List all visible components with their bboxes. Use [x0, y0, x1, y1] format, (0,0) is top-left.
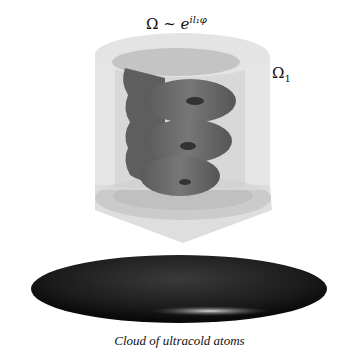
diagram-canvas [0, 0, 359, 358]
phase-equation-label: Ω ~ eil₁φ [146, 14, 207, 33]
atom-cloud [31, 255, 327, 323]
exponent: il₁φ [189, 14, 206, 25]
beam-symbol: Ω [272, 64, 284, 82]
figure-caption: Cloud of ultracold atoms [0, 333, 359, 349]
relation-symbol: ~ [163, 15, 176, 33]
beam-subscript: 1 [284, 73, 290, 84]
omega-symbol: Ω [146, 15, 158, 33]
beam-label: Ω1 [272, 64, 291, 84]
helical-phase-front [123, 68, 236, 196]
